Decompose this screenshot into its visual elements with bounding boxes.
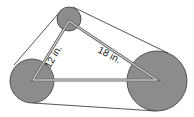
pulley-diagram: 12 in. 18 in. xyxy=(0,0,194,117)
label-left-side: 12 in. xyxy=(42,43,64,70)
belt-segment-top-right xyxy=(73,7,168,53)
pulleys xyxy=(10,7,187,111)
